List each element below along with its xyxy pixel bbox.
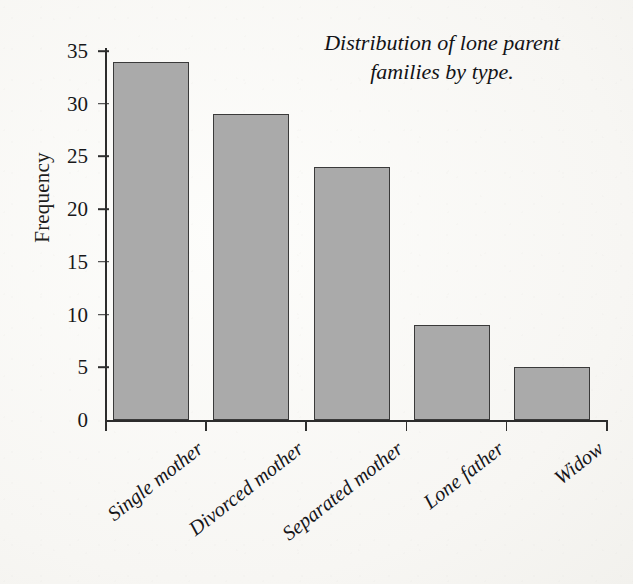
- y-tick-mark: [98, 261, 109, 263]
- y-tick-mark: [98, 156, 109, 158]
- y-tick-label: 35: [42, 39, 88, 64]
- bar: [514, 367, 590, 420]
- bar: [213, 114, 289, 420]
- y-tick-label: 25: [42, 144, 88, 169]
- bar: [314, 167, 390, 420]
- x-axis-label: Single mother: [103, 437, 207, 526]
- y-tick-label: 5: [42, 355, 88, 380]
- x-axis-label: Lone father: [419, 437, 508, 514]
- y-tick-label: 15: [42, 249, 88, 274]
- y-tick-mark: [98, 103, 109, 105]
- x-tick-mark: [506, 420, 508, 431]
- chart-title-line-1: Distribution of lone parent: [282, 28, 602, 57]
- chart-title: Distribution of lone parent families by …: [282, 28, 602, 86]
- bar: [113, 62, 189, 420]
- x-axis-line: [105, 420, 606, 422]
- chart-title-line-2: families by type.: [282, 57, 602, 86]
- bar-chart: Distribution of lone parent families by …: [0, 0, 633, 584]
- y-tick-label: 0: [42, 408, 88, 433]
- y-tick-mark: [98, 366, 109, 368]
- y-tick-label: 20: [42, 197, 88, 222]
- x-tick-mark-origin: [105, 420, 107, 431]
- y-tick-mark: [98, 50, 109, 52]
- y-tick-mark: [98, 208, 109, 210]
- x-tick-mark: [406, 420, 408, 431]
- x-axis-label: Widow: [550, 437, 608, 489]
- x-tick-mark: [606, 420, 608, 431]
- y-tick-label: 10: [42, 302, 88, 327]
- x-tick-mark: [305, 420, 307, 431]
- y-tick-label: 30: [42, 91, 88, 116]
- x-tick-mark: [205, 420, 207, 431]
- bar: [414, 325, 490, 420]
- y-tick-mark: [98, 314, 109, 316]
- plot-area: Distribution of lone parent families by …: [0, 0, 633, 584]
